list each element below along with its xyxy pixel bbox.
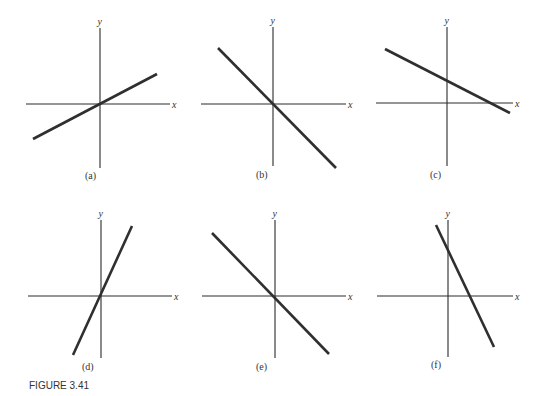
figure-3-41: yx(a)yx(b)yx(c)yx(d)yx(e)yx(f) FIGURE 3.… <box>0 0 547 396</box>
caption-layer: FIGURE 3.41 <box>0 0 547 396</box>
figure-caption: FIGURE 3.41 <box>29 380 89 391</box>
